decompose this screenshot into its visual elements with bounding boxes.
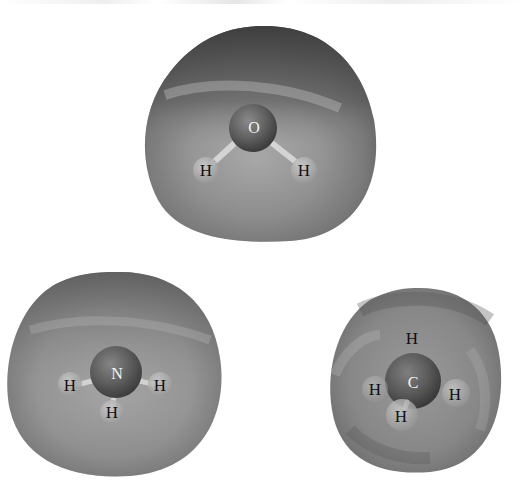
nitrogen-atom-label: N <box>111 366 123 382</box>
hydrogen-atom-label: H <box>406 330 418 347</box>
methane-molecule: H C H H H <box>320 280 523 480</box>
water-potential-surface <box>0 0 523 260</box>
hydrogen-atom-label: H <box>369 381 381 398</box>
carbon-atom-label: C <box>408 375 419 391</box>
ammonia-molecule: N H H H <box>0 260 260 480</box>
hydrogen-atom-label: H <box>395 408 407 425</box>
water-molecule: O H H <box>0 0 523 260</box>
hydrogen-atom-label: H <box>106 404 118 421</box>
hydrogen-atom-label: H <box>449 386 461 403</box>
methane-potential-surface <box>320 280 523 480</box>
ammonia-potential-surface <box>0 260 260 480</box>
hydrogen-atom-label: H <box>154 377 166 394</box>
hydrogen-atom-label: H <box>298 162 310 179</box>
hydrogen-atom-label: H <box>200 162 212 179</box>
hydrogen-atom-label: H <box>64 377 76 394</box>
oxygen-atom-label: O <box>248 120 260 136</box>
